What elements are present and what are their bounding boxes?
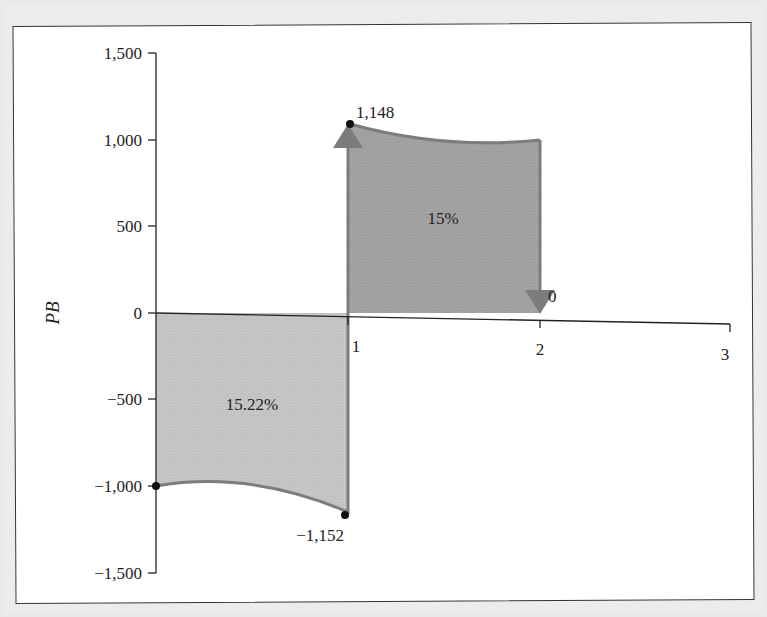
x-tick-2: 2 bbox=[536, 340, 545, 359]
x-tick-1: 1 bbox=[352, 337, 361, 356]
area-label-negative: 15.22% bbox=[226, 395, 278, 414]
chart-svg: 1,500 1,000 500 0 −500 −1,000 −1,500 1 2… bbox=[0, 0, 767, 617]
point-m1152 bbox=[341, 511, 349, 519]
area-label-positive: 15% bbox=[427, 209, 458, 228]
label-m1152: −1,152 bbox=[296, 526, 344, 545]
y-tick-500: 500 bbox=[117, 217, 143, 236]
label-zero: 0 bbox=[548, 287, 557, 306]
y-tick-1500: 1,500 bbox=[104, 44, 142, 63]
y-tick-m1000: −1,000 bbox=[94, 477, 142, 496]
y-axis-label: PB bbox=[42, 301, 63, 326]
y-tick-0: 0 bbox=[134, 304, 143, 323]
point-start-negative bbox=[152, 482, 160, 490]
y-tick-m500: −500 bbox=[107, 390, 142, 409]
point-1148 bbox=[346, 120, 354, 128]
label-1148: 1,148 bbox=[356, 103, 394, 122]
y-tick-m1500: −1,500 bbox=[94, 564, 142, 583]
y-ticks bbox=[148, 53, 156, 573]
y-tick-1000: 1,000 bbox=[104, 131, 142, 150]
x-tick-3: 3 bbox=[721, 345, 730, 364]
x-ticks bbox=[348, 317, 730, 332]
